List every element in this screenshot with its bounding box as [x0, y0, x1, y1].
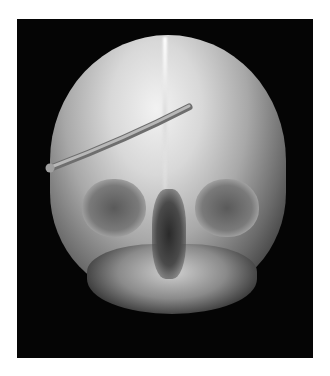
xray-image-frame	[17, 19, 313, 358]
metal-rod	[17, 19, 313, 358]
